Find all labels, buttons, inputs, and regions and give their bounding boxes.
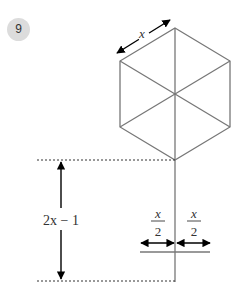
left-fraction-denominator: 2	[155, 224, 162, 239]
hexagon-diagram: x 2x − 1 x 2 x 2	[0, 0, 246, 292]
hexagon	[120, 28, 230, 160]
height-label: 2x − 1	[43, 213, 79, 228]
side-label: x	[138, 26, 145, 41]
left-fraction-numerator: x	[154, 206, 161, 221]
right-fraction-denominator: 2	[191, 224, 198, 239]
right-fraction-numerator: x	[190, 206, 197, 221]
